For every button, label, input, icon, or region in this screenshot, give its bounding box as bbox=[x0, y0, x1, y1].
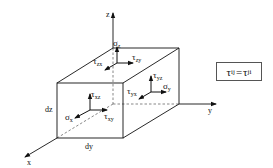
element-box bbox=[57, 48, 179, 138]
eq-rhs-sub: ji bbox=[248, 68, 252, 76]
sigma-z-label: σz bbox=[113, 38, 121, 49]
tau-yz-label: τyz bbox=[153, 70, 163, 81]
stress-element-diagram: z y x dz dy σz τzx τzy τxz τxy σx τyz σy… bbox=[0, 0, 273, 168]
x-axis-label: x bbox=[27, 158, 31, 167]
dy-label: dy bbox=[85, 142, 93, 151]
tau-yx-label: τyx bbox=[127, 86, 137, 97]
sigma-y-label: σy bbox=[163, 81, 171, 92]
eq-operator: = bbox=[236, 66, 242, 78]
symmetry-equation-box: τij=τji bbox=[216, 62, 262, 81]
z-axis-label: z bbox=[106, 10, 110, 19]
y-axis-label: y bbox=[208, 106, 212, 115]
eq-lhs-sub: ij bbox=[231, 68, 235, 76]
sigma-x-label: σx bbox=[65, 112, 73, 123]
dz-label: dz bbox=[45, 105, 53, 114]
tau-xz-label: τxz bbox=[91, 89, 101, 100]
tau-zy-label: τzy bbox=[132, 52, 141, 63]
tau-xy-label: τxy bbox=[104, 111, 114, 122]
